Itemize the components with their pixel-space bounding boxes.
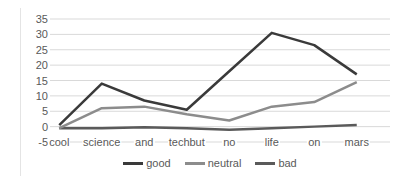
legend: good neutral bad xyxy=(0,157,420,169)
legend-item-bad: bad xyxy=(255,157,296,169)
legend-label-good: good xyxy=(146,157,170,169)
legend-item-good: good xyxy=(123,157,170,169)
line-chart: 35302520151050-5 coolscienceandtechbutno… xyxy=(0,0,420,186)
legend-swatch-neutral xyxy=(185,162,205,165)
x-tick-label: cool xyxy=(48,136,70,148)
x-tick-label: science xyxy=(82,136,121,148)
y-tick-label: 25 xyxy=(26,44,48,56)
y-tick-label: 15 xyxy=(26,75,48,87)
legend-item-neutral: neutral xyxy=(185,157,242,169)
legend-swatch-bad xyxy=(255,162,275,165)
x-tick-label: life xyxy=(264,136,280,148)
y-tick-label: 5 xyxy=(26,105,48,117)
y-tick-label: 0 xyxy=(26,121,48,133)
y-tick-label: 20 xyxy=(26,59,48,71)
x-tick-label: mars xyxy=(344,136,370,148)
series-line-bad xyxy=(59,125,357,130)
legend-label-bad: bad xyxy=(278,157,296,169)
x-tick-label: on xyxy=(307,136,321,148)
x-tick-label: and xyxy=(134,136,154,148)
x-tick-label: techbut xyxy=(168,136,206,148)
y-tick-label: 10 xyxy=(26,90,48,102)
y-tick-label: 35 xyxy=(26,13,48,25)
y-tick-label: -5 xyxy=(26,136,48,148)
legend-label-neutral: neutral xyxy=(208,157,242,169)
x-tick-label: no xyxy=(222,136,236,148)
legend-swatch-good xyxy=(123,162,143,165)
y-tick-label: 30 xyxy=(26,28,48,40)
